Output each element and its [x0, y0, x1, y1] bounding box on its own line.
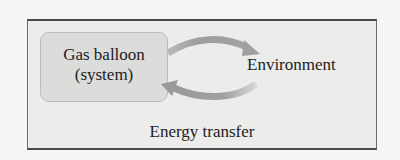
system-label-line1: Gas balloon: [41, 45, 167, 65]
diagram-canvas: Gas balloon (system) Envir: [0, 0, 400, 160]
diagram-caption: Energy transfer: [0, 122, 400, 142]
system-label: Gas balloon (system): [41, 45, 167, 85]
environment-label: Environment: [247, 55, 336, 75]
system-box: Gas balloon (system): [40, 32, 168, 102]
system-label-line2: (system): [41, 65, 167, 85]
